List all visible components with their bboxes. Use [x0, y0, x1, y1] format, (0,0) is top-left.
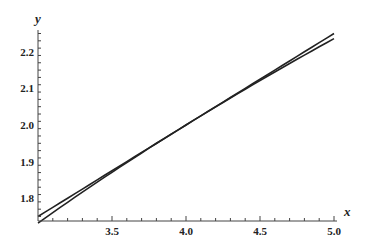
line-chart: 3.54.04.55.0 1.81.92.02.12.2 x y — [0, 0, 373, 249]
x-tick-label: 5.0 — [327, 225, 341, 237]
y-tick-label: 2.2 — [20, 46, 34, 58]
y-tick-label: 2.0 — [20, 119, 34, 131]
y-axis-label: y — [33, 11, 41, 26]
x-tick-label: 4.5 — [253, 225, 267, 237]
y-tick-label: 1.9 — [20, 156, 34, 168]
x-tick-label: 4.0 — [179, 225, 193, 237]
series-line-1 — [38, 34, 334, 217]
x-ticks: 3.54.04.55.0 — [53, 216, 342, 237]
y-tick-label: 1.8 — [20, 192, 34, 204]
x-tick-label: 3.5 — [105, 225, 119, 237]
y-tick-label: 2.1 — [20, 82, 34, 94]
plot-lines — [38, 34, 334, 224]
series-line-0 — [38, 39, 334, 224]
x-axis-label: x — [343, 204, 351, 219]
